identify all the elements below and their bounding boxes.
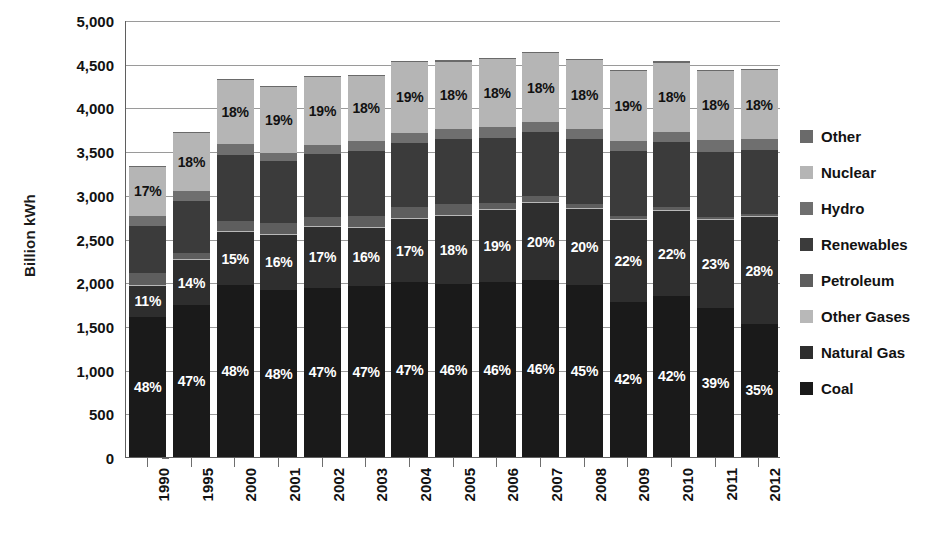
bar-segment-coal[interactable]: 47%	[348, 286, 385, 457]
bar-segment-hydro[interactable]	[653, 132, 690, 143]
bar-segment-hydro[interactable]	[479, 127, 516, 138]
bar-segment-other-gases[interactable]	[610, 219, 647, 220]
bar-segment-renewables[interactable]	[217, 155, 254, 221]
bar-segment-other[interactable]	[260, 86, 297, 87]
bar-segment-natural-gas[interactable]: 28%	[741, 217, 778, 323]
bar-segment-other[interactable]	[522, 52, 559, 53]
bar-segment-other[interactable]	[435, 60, 472, 61]
bar-segment-hydro[interactable]	[348, 141, 385, 151]
bar-segment-nuclear[interactable]: 19%	[304, 77, 341, 145]
bar-segment-other-gases[interactable]	[479, 209, 516, 210]
bar-segment-coal[interactable]: 46%	[522, 280, 559, 457]
bar-segment-petroleum[interactable]	[435, 204, 472, 215]
bar-2009[interactable]: 42%22%19%	[610, 70, 647, 457]
bar-segment-petroleum[interactable]	[522, 196, 559, 202]
bar-segment-hydro[interactable]	[697, 140, 734, 152]
legend-item-renewables[interactable]: Renewables	[800, 226, 950, 262]
bar-segment-coal[interactable]: 48%	[217, 285, 254, 457]
bar-segment-other[interactable]	[741, 69, 778, 70]
bar-2002[interactable]: 47%17%19%	[304, 76, 341, 457]
bar-segment-coal[interactable]: 47%	[391, 282, 428, 457]
bar-segment-renewables[interactable]	[653, 142, 690, 207]
bar-segment-other[interactable]	[391, 61, 428, 62]
bar-segment-other-gases[interactable]	[348, 227, 385, 228]
bar-segment-natural-gas[interactable]: 16%	[260, 234, 297, 290]
bar-segment-hydro[interactable]	[610, 141, 647, 151]
bar-segment-petroleum[interactable]	[173, 253, 210, 259]
bar-segment-coal[interactable]: 47%	[304, 288, 341, 457]
bar-segment-hydro[interactable]	[260, 153, 297, 161]
bar-segment-petroleum[interactable]	[260, 223, 297, 234]
bar-segment-other[interactable]	[610, 70, 647, 71]
bar-2000[interactable]: 48%15%18%	[217, 79, 254, 457]
bar-segment-other-gases[interactable]	[653, 210, 690, 211]
bar-segment-other[interactable]	[348, 75, 385, 76]
bar-segment-natural-gas[interactable]: 14%	[173, 260, 210, 305]
bar-segment-hydro[interactable]	[217, 144, 254, 155]
bar-segment-natural-gas[interactable]: 19%	[479, 210, 516, 282]
bar-segment-other[interactable]	[653, 61, 690, 62]
bar-segment-other-gases[interactable]	[741, 216, 778, 217]
bar-segment-renewables[interactable]	[304, 154, 341, 217]
bar-2003[interactable]: 47%16%18%	[348, 75, 385, 457]
bar-segment-nuclear[interactable]: 19%	[391, 62, 428, 133]
bar-1995[interactable]: 47%14%18%	[173, 132, 210, 457]
bar-segment-nuclear[interactable]: 18%	[741, 70, 778, 138]
bar-segment-coal[interactable]: 45%	[566, 285, 603, 457]
bar-segment-petroleum[interactable]	[566, 204, 603, 208]
bar-1990[interactable]: 48%11%17%	[129, 166, 166, 457]
bar-segment-natural-gas[interactable]: 17%	[391, 219, 428, 282]
bar-segment-other[interactable]	[697, 70, 734, 71]
legend-item-hydro[interactable]: Hydro	[800, 190, 950, 226]
bar-segment-coal[interactable]: 39%	[697, 308, 734, 457]
bar-2008[interactable]: 45%20%18%	[566, 59, 603, 457]
bar-segment-natural-gas[interactable]: 20%	[566, 209, 603, 285]
bar-segment-petroleum[interactable]	[217, 221, 254, 231]
bar-segment-other-gases[interactable]	[304, 226, 341, 227]
bar-2007[interactable]: 46%20%18%	[522, 52, 559, 457]
bar-segment-natural-gas[interactable]: 16%	[348, 228, 385, 286]
bar-segment-renewables[interactable]	[260, 161, 297, 222]
legend-item-other-gases[interactable]: Other Gases	[800, 298, 950, 334]
bar-segment-renewables[interactable]	[435, 139, 472, 204]
bar-segment-hydro[interactable]	[741, 139, 778, 150]
bar-segment-other[interactable]	[479, 58, 516, 59]
bar-segment-other-gases[interactable]	[173, 259, 210, 260]
bar-segment-natural-gas[interactable]: 22%	[610, 220, 647, 301]
bar-segment-petroleum[interactable]	[741, 214, 778, 216]
bar-segment-hydro[interactable]	[522, 122, 559, 131]
bar-segment-nuclear[interactable]: 18%	[479, 59, 516, 127]
bar-segment-nuclear[interactable]: 18%	[566, 60, 603, 129]
bar-segment-petroleum[interactable]	[348, 216, 385, 226]
bar-segment-nuclear[interactable]: 19%	[610, 71, 647, 141]
bar-segment-petroleum[interactable]	[304, 217, 341, 225]
bar-segment-hydro[interactable]	[129, 216, 166, 226]
bar-2011[interactable]: 39%23%18%	[697, 70, 734, 457]
bar-segment-coal[interactable]: 46%	[435, 284, 472, 457]
bar-segment-coal[interactable]: 35%	[741, 324, 778, 457]
bar-segment-nuclear[interactable]: 18%	[217, 80, 254, 144]
bar-segment-natural-gas[interactable]: 11%	[129, 285, 166, 317]
bar-segment-other-gases[interactable]	[260, 234, 297, 235]
bar-segment-coal[interactable]: 42%	[653, 296, 690, 457]
legend-item-coal[interactable]: Coal	[800, 370, 950, 406]
bar-segment-natural-gas[interactable]: 22%	[653, 211, 690, 295]
bar-2006[interactable]: 46%19%18%	[479, 58, 516, 457]
bar-segment-renewables[interactable]	[129, 226, 166, 274]
bar-segment-natural-gas[interactable]: 20%	[522, 203, 559, 280]
bar-segment-other-gases[interactable]	[217, 231, 254, 232]
legend-item-nuclear[interactable]: Nuclear	[800, 154, 950, 190]
bar-segment-petroleum[interactable]	[697, 217, 734, 220]
bar-segment-petroleum[interactable]	[391, 207, 428, 218]
bar-segment-renewables[interactable]	[348, 151, 385, 216]
bar-segment-renewables[interactable]	[522, 132, 559, 197]
bar-segment-petroleum[interactable]	[129, 273, 166, 284]
bar-segment-renewables[interactable]	[610, 151, 647, 216]
bar-segment-nuclear[interactable]: 18%	[173, 133, 210, 191]
bar-segment-other[interactable]	[566, 59, 603, 60]
bar-segment-renewables[interactable]	[697, 152, 734, 216]
legend-item-petroleum[interactable]: Petroleum	[800, 262, 950, 298]
bar-segment-coal[interactable]: 42%	[610, 302, 647, 457]
bar-segment-other[interactable]	[173, 132, 210, 133]
bar-segment-nuclear[interactable]: 18%	[522, 53, 559, 122]
